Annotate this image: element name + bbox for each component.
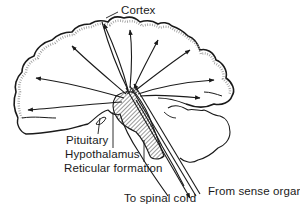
label-cortex: Cortex	[121, 5, 155, 17]
label-pituitary: Pituitary	[66, 135, 108, 147]
cerebellum	[164, 106, 230, 162]
label-to-spinal-cord: To spinal cord	[124, 193, 196, 205]
label-from-sense-organ: From sense organ	[208, 186, 300, 198]
temporal-sulcus	[158, 98, 186, 104]
brain-diagram	[0, 0, 300, 213]
pituitary-shape	[96, 117, 106, 124]
frontal-sulcus	[22, 117, 56, 118]
label-hypothalamus: Hypothalamus	[65, 149, 140, 161]
occipital-sulcus	[204, 92, 222, 96]
label-reticular-formation: Reticular formation	[64, 163, 162, 175]
frontal-lower-edge	[17, 118, 88, 134]
